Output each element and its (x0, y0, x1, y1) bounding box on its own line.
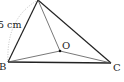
point-o (59, 50, 62, 53)
triangle-diagram: O B C 5 cm (0, 0, 124, 82)
measure-label: 5 cm (0, 19, 21, 30)
side-bc (8, 62, 111, 63)
segment-bo (8, 51, 60, 62)
label-c: C (113, 62, 121, 73)
segment-ao (38, 0, 60, 51)
side-ab (8, 0, 38, 62)
label-b: B (0, 61, 6, 72)
label-o: O (62, 40, 70, 51)
